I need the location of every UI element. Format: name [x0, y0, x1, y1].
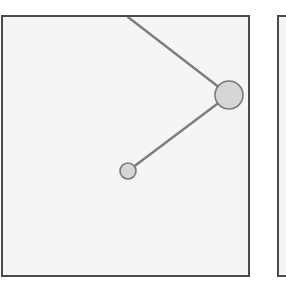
primary-panel: [1, 15, 250, 277]
graph-node: [120, 163, 136, 179]
graph-node: [215, 81, 243, 109]
secondary-panel: [277, 15, 286, 277]
figure-root: [0, 0, 286, 294]
node-link-graph: [3, 17, 248, 275]
graph-edge: [128, 17, 229, 95]
secondary-panel-canvas: [279, 17, 286, 275]
primary-panel-canvas: [3, 17, 248, 275]
graph-edge: [128, 95, 229, 171]
